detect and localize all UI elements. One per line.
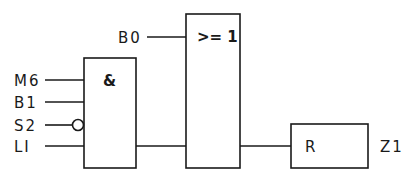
and-gate-symbol: & — [103, 72, 116, 90]
reset-block-box — [291, 124, 368, 168]
input-label-m6: M6 — [14, 72, 41, 90]
input-label-b1: B1 — [14, 94, 38, 112]
output-label-z1: Z1 — [380, 138, 403, 156]
logic-diagram: & M6 B1 S2 LI >= 1 B0 R Z1 — [0, 0, 403, 176]
input-label-li: LI — [14, 138, 31, 156]
input-label-b0: B0 — [118, 29, 142, 47]
negation-circle-icon — [73, 120, 84, 131]
input-label-s2: S2 — [14, 117, 37, 135]
or-gate-symbol: >= 1 — [197, 28, 238, 46]
reset-block-symbol: R — [305, 138, 317, 156]
